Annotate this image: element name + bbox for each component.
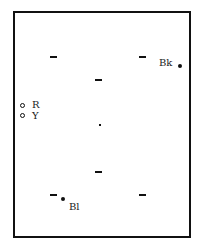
dash-marker-top-right	[139, 56, 146, 58]
yellow-marker-ring	[20, 113, 25, 118]
label-red: R	[32, 100, 40, 110]
label-yellow: Y	[32, 111, 39, 121]
label-blue: Bl	[69, 202, 80, 212]
dash-marker-lower-center	[95, 171, 102, 173]
center-point	[99, 124, 101, 126]
dash-marker-upper-center	[95, 79, 102, 81]
label-black: Bk	[159, 58, 172, 68]
dash-marker-bottom-right	[139, 194, 146, 196]
diagram-frame	[13, 11, 191, 238]
black-point	[178, 64, 182, 68]
dash-marker-top-left	[50, 56, 57, 58]
dash-marker-bottom-left	[50, 194, 57, 196]
red-marker-ring	[20, 103, 25, 108]
blue-point	[61, 197, 65, 201]
